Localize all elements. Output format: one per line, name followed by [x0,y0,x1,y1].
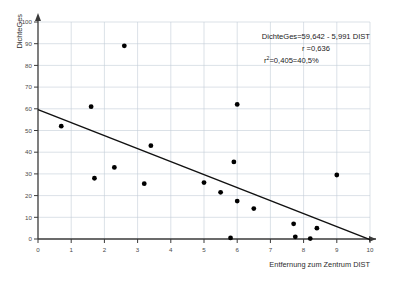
data-point [334,173,339,178]
data-point [148,143,153,148]
x-tick-label: 6 [235,246,239,253]
data-point [228,236,233,241]
data-point [308,236,313,241]
y-axis-title: DichteGes [15,14,24,49]
data-point [291,221,296,226]
data-point [112,165,117,170]
y-tick-label: 0 [29,235,33,242]
data-point [92,176,97,181]
data-point [218,190,223,195]
y-axis-arrow [35,13,41,21]
r-squared-text: r2=0,405=40,5% [264,55,319,65]
data-point [314,226,319,231]
y-tick-label: 90 [25,40,32,47]
data-point [235,199,240,204]
x-tick-label: 2 [103,246,107,253]
y-tick-label: 80 [25,62,32,69]
data-point [89,104,94,109]
y-tick-label: 50 [25,127,32,134]
x-tick-label: 5 [202,246,206,253]
data-point [293,234,298,239]
x-tick-label: 9 [335,246,339,253]
x-tick-label: 3 [136,246,140,253]
statistics-annotation: DichteGes=59,642 - 5,991 DIST r =0,636 r… [262,32,371,65]
data-point [251,206,256,211]
y-tick-label: 70 [25,83,32,90]
regression-equation-text: DichteGes=59,642 - 5,991 DIST [262,32,371,41]
x-tick-label: 8 [302,246,306,253]
data-point [231,160,236,165]
x-tick-label: 1 [69,246,73,253]
x-axis-title: Entfernung zum Zentrum DIST [269,260,370,269]
data-point [235,102,240,107]
x-tick-label: 4 [169,246,173,253]
x-tick-label: 10 [367,246,374,253]
y-tick-label: 60 [25,105,32,112]
data-point [142,181,147,186]
y-axis-ticks: 0102030405060708090100 [22,18,38,242]
y-tick-label: 40 [25,148,32,155]
plot-canvas: 012345678910 0102030405060708090100 Entf… [0,0,397,281]
y-tick-label: 20 [25,192,32,199]
x-tick-label: 0 [36,246,40,253]
y-tick-label: 10 [25,214,32,221]
data-point [59,124,64,129]
data-point [202,180,207,185]
data-point [122,43,127,48]
r-squared-value: =0,405=40,5% [269,56,319,65]
y-tick-label: 30 [25,170,32,177]
x-tick-label: 7 [269,246,273,253]
correlation-coefficient-text: r =0,636 [302,44,330,53]
x-axis-ticks: 012345678910 [36,239,374,253]
scatter-plot-figure: 012345678910 0102030405060708090100 Entf… [0,0,397,281]
